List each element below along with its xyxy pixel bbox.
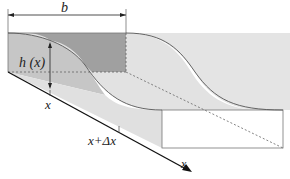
diagram-canvas: b h (x) x x+Δx x xyxy=(0,0,290,179)
channel-diagram xyxy=(0,0,290,179)
height-label-hx: h (x) xyxy=(19,56,45,70)
front-box xyxy=(162,110,283,148)
position-label-x: x xyxy=(45,98,51,111)
width-label-b: b xyxy=(61,1,68,15)
position-label-x-plus-dx: x+Δx xyxy=(88,134,116,147)
axis-label-x: x xyxy=(181,158,186,170)
